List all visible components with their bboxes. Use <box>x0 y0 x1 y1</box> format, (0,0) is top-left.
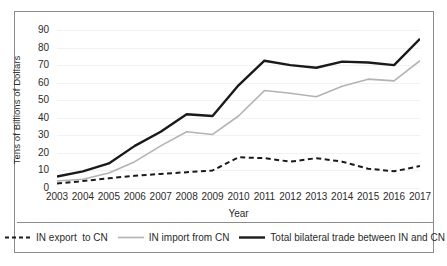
gridline <box>57 188 420 189</box>
y-axis-tick-label: 20 <box>27 148 49 158</box>
legend-entry-0[interactable]: IN export to CN <box>5 232 108 243</box>
chart-figure-inner: Tens of Billions of Dollars 010203040506… <box>15 12 433 252</box>
y-axis-tick-label: 40 <box>27 113 49 123</box>
legend-swatch-solid-icon <box>118 233 144 242</box>
y-axis-tick-label: 50 <box>27 95 49 105</box>
legend-divider <box>17 222 433 223</box>
legend-label: Total bilateral trade between IN and CN <box>270 232 445 243</box>
plot-area <box>57 30 420 188</box>
x-axis-tick-label: 2017 <box>405 191 435 203</box>
chart-figure: Tens of Billions of Dollars 010203040506… <box>14 11 434 253</box>
legend-entry-2[interactable]: Total bilateral trade between IN and CN <box>239 232 445 243</box>
y-axis-tick-label: 30 <box>27 130 49 140</box>
series-layer <box>57 30 420 188</box>
legend-swatch-solid-icon <box>239 233 265 242</box>
y-axis-tick-label: 10 <box>27 165 49 175</box>
legend-label: IN import from CN <box>149 232 230 243</box>
legend-entry-1[interactable]: IN import from CN <box>118 232 230 243</box>
x-axis-tick-labels: 2003200420052006200720082009201020112012… <box>57 191 420 204</box>
y-axis-tick-label: 90 <box>27 25 49 35</box>
legend-label: IN export to CN <box>36 232 108 243</box>
series-line-2 <box>57 39 420 177</box>
chart-legend: IN export to CNIN import from CNTotal bi… <box>25 229 425 245</box>
legend-swatch-dashed-icon <box>5 233 31 242</box>
x-axis-title: Year <box>57 208 420 219</box>
y-axis-tick-label: 70 <box>27 60 49 70</box>
series-svg <box>57 30 420 188</box>
y-axis-title: Tens of Billions of Dollars <box>11 34 25 186</box>
y-axis-tick-label: 80 <box>27 43 49 53</box>
y-axis-tick-label: 60 <box>27 78 49 88</box>
